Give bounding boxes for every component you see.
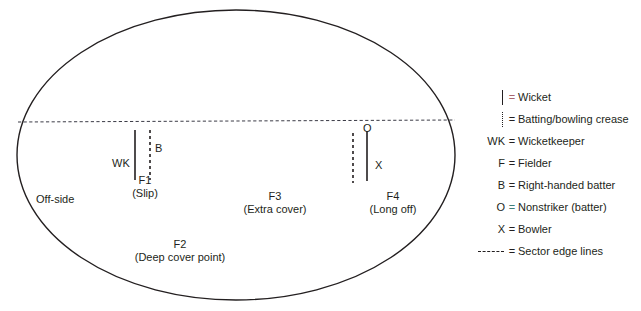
legend-row: WK=Wicketkeeper [470, 130, 641, 152]
legend-crease-icon [470, 108, 506, 130]
legend-label: Batting/bowling crease [518, 108, 629, 130]
label-fielder-2-name: (Deep cover point) [135, 251, 226, 264]
legend-equals-sign: = [506, 157, 518, 169]
legend-row: =Batting/bowling crease [470, 108, 641, 130]
legend-row: F=Fielder [470, 152, 641, 174]
legend-symbol-text: X [470, 218, 506, 240]
legend-wicket-icon [470, 86, 506, 108]
label-fielder-1-code: F1 [132, 174, 158, 187]
label-fielder-2-code: F2 [135, 238, 226, 251]
label-fielder-4-name: (Long off) [370, 203, 417, 216]
label-batter: B [155, 142, 162, 154]
legend-row: =Wicket [470, 86, 641, 108]
legend-symbol-text: B [470, 174, 506, 196]
field-svg [0, 0, 470, 311]
boundary-ellipse [17, 10, 455, 300]
field-area: Off-side WK F1 (Slip) B O X F3 (Extra co… [0, 0, 470, 311]
legend-equals-sign: = [506, 179, 518, 191]
legend-label: Bowler [518, 218, 552, 240]
crease-icon [502, 112, 503, 127]
label-nonstriker: O [363, 122, 372, 134]
wicket-icon [502, 90, 504, 105]
label-fielder-2: F2 (Deep cover point) [135, 238, 226, 264]
legend-row: X=Bowler [470, 218, 641, 240]
legend-equals-sign: = [506, 113, 518, 125]
label-fielder-3-name: (Extra cover) [244, 203, 307, 216]
label-bowler: X [375, 159, 382, 171]
legend-equals-sign: = [506, 91, 518, 103]
legend-row: =Sector edge lines [470, 240, 641, 262]
legend-label: Right-handed batter [518, 174, 615, 196]
label-fielder-4-code: F4 [370, 190, 417, 203]
legend-label: Wicketkeeper [518, 130, 585, 152]
legend-row: O=Nonstriker (batter) [470, 196, 641, 218]
label-off-side: Off-side [36, 193, 74, 206]
legend-label: Wicket [518, 86, 551, 108]
label-fielder-1: F1 (Slip) [132, 174, 158, 200]
label-fielder-3-code: F3 [244, 190, 307, 203]
label-wicketkeeper: WK [112, 157, 130, 169]
legend-symbol-text: F [470, 152, 506, 174]
label-fielder-4: F4 (Long off) [370, 190, 417, 216]
legend-symbol-text: WK [470, 130, 506, 152]
legend-equals-sign: = [506, 201, 518, 213]
legend-label: Sector edge lines [518, 240, 603, 262]
label-fielder-3: F3 (Extra cover) [244, 190, 307, 216]
label-fielder-1-name: (Slip) [132, 187, 158, 200]
legend-label: Nonstriker (batter) [518, 196, 607, 218]
sector-line-icon [478, 251, 504, 252]
legend-row: B=Right-handed batter [470, 174, 641, 196]
legend-symbol-text: O [470, 196, 506, 218]
legend: =Wicket=Batting/bowling creaseWK=Wicketk… [470, 86, 641, 256]
cricket-field-diagram: Off-side WK F1 (Slip) B O X F3 (Extra co… [0, 0, 641, 311]
legend-label: Fielder [518, 152, 552, 174]
legend-sector-line-icon [470, 240, 506, 262]
legend-equals-sign: = [506, 135, 518, 147]
legend-equals-sign: = [506, 245, 518, 257]
legend-equals-sign: = [506, 223, 518, 235]
